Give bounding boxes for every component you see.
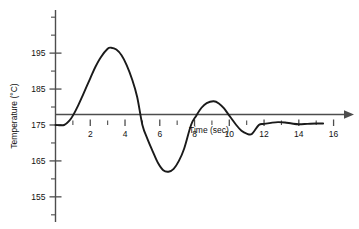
x-axis-arrow-icon — [344, 110, 354, 119]
chart-container: 155165175185195 246810121416 Time (sec) … — [0, 0, 359, 229]
x-tick-label: 14 — [294, 129, 304, 139]
y-tick-label: 195 — [31, 48, 45, 58]
y-axis-group: 155165175185195 — [31, 10, 61, 222]
y-axis-tick-labels: 155165175185195 — [31, 48, 45, 202]
temperature-curve — [56, 48, 324, 172]
y-tick-label: 175 — [31, 120, 45, 130]
x-tick-label: 2 — [88, 129, 93, 139]
y-tick-label: 165 — [31, 156, 45, 166]
x-tick-label: 6 — [157, 129, 162, 139]
x-tick-label: 16 — [329, 129, 339, 139]
x-axis-title: Time (sec) — [189, 125, 229, 135]
x-tick-label: 4 — [123, 129, 128, 139]
y-axis-title: Temperature (°C) — [9, 83, 19, 148]
y-tick-label: 185 — [31, 84, 45, 94]
y-tick-label: 155 — [31, 192, 45, 202]
x-tick-label: 12 — [259, 129, 269, 139]
temperature-response-chart: 155165175185195 246810121416 Time (sec) … — [0, 0, 359, 229]
